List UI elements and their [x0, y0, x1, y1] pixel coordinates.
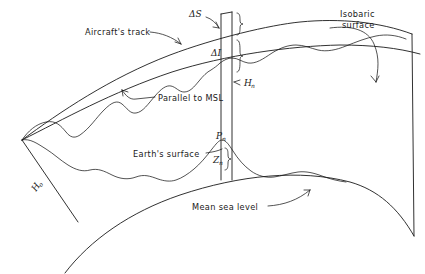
- symbol-p-n: P n: [215, 131, 226, 142]
- radial-line-right: [412, 34, 414, 236]
- symbol-delta-i: ΔI: [210, 48, 221, 58]
- symbol-h-n: H n: [243, 78, 255, 89]
- label-mean-sea-level: Mean sea level: [192, 202, 258, 212]
- vertical-column-cap: [221, 12, 232, 14]
- earths-surface-leader-line: [206, 149, 222, 153]
- symbol-h-n-subscript: n: [251, 82, 255, 89]
- isobaric-surface-bracket: [330, 27, 378, 82]
- isobaric-surface-arrowhead-icon: [371, 76, 379, 82]
- symbol-h-o: H o: [29, 178, 45, 194]
- symbol-p-n-subscript: n: [222, 135, 226, 142]
- label-isobaric-surface-line1: Isobaric: [340, 9, 375, 19]
- z-n-brace: [225, 148, 231, 170]
- altimetry-diagram: Aircraft's track Isobaric surface Parall…: [0, 0, 425, 274]
- delta-s-leader-line: [206, 17, 219, 28]
- label-parallel-to-msl: Parallel to MSL: [158, 93, 223, 103]
- symbol-delta-s: ΔS: [188, 9, 202, 19]
- label-isobaric-surface-line2: surface: [342, 20, 375, 30]
- h-n-arrowhead-icon: [234, 80, 240, 85]
- label-aircraft-track: Aircraft's track: [85, 27, 150, 37]
- label-earths-surface: Earth's surface: [133, 149, 200, 159]
- figure-container: Aircraft's track Isobaric surface Parall…: [0, 0, 425, 274]
- symbol-z-n-subscript: n: [219, 159, 223, 166]
- mean-sea-level-leader-line: [268, 190, 310, 206]
- mean-sea-level-curve: [65, 175, 414, 273]
- isobaric-surface-curve: [22, 21, 412, 141]
- radial-line-ho: [22, 140, 78, 222]
- earth-surface-curve: [22, 140, 346, 182]
- delta-s-brace: [237, 13, 243, 35]
